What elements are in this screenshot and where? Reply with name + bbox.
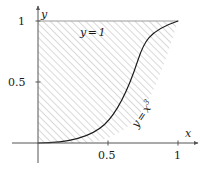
label-y-equals-1-eq: =: [86, 26, 98, 39]
figure-container: 1 0.5 0.5 1 y x y=1 y=x3: [0, 0, 208, 172]
label-y-equals-1: y=1: [80, 27, 105, 38]
x-tick-label-0-5: 0.5: [98, 150, 116, 161]
label-y-equals-1-rhs: 1: [98, 26, 105, 39]
y-tick-label-1: 1: [18, 16, 25, 27]
y-tick-label-0-5: 0.5: [8, 77, 26, 88]
y-axis-label: y: [41, 9, 47, 20]
x-tick-label-1: 1: [174, 150, 181, 161]
x-axis-label: x: [185, 128, 191, 139]
shaded-region: [38, 21, 178, 143]
